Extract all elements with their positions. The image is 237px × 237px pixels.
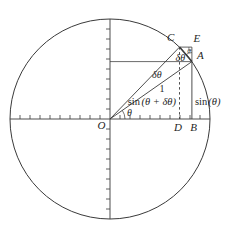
point-label-O: O xyxy=(98,119,106,131)
radius-length-label: 1 xyxy=(160,83,165,94)
point-label-A: A xyxy=(196,49,204,61)
radius-OA-line xyxy=(110,62,192,119)
delta-theta-angle-label: δθ xyxy=(152,69,162,80)
point-label-C: C xyxy=(167,31,175,43)
sin-function-text: sin xyxy=(195,96,208,107)
sin-function-text: sin xyxy=(128,96,141,107)
point-label-D: D xyxy=(173,121,182,133)
theta-angle-arc xyxy=(122,110,125,119)
radius-OC-line xyxy=(110,47,180,119)
sin-theta-plus-delta-label: sin(θ + δθ) xyxy=(128,96,177,108)
sin-theta-label: sin(θ) xyxy=(195,96,221,108)
point-label-B: B xyxy=(190,121,197,133)
unit-circle-diagram: O A B C D E θ δθ δθ θ 1 sin(θ + δθ) sin(… xyxy=(0,0,237,237)
point-label-E: E xyxy=(193,32,201,44)
delta-theta-chord-label: δθ xyxy=(176,52,186,63)
sin-theta-argument: (θ) xyxy=(208,96,221,108)
sin-theta-plus-delta-argument: (θ + δθ) xyxy=(141,96,176,108)
theta-at-A-label: θ xyxy=(187,47,191,55)
unit-circle-figure: O A B C D E θ δθ δθ θ 1 sin(θ + δθ) sin(… xyxy=(0,0,237,237)
theta-angle-label: θ xyxy=(127,107,132,118)
